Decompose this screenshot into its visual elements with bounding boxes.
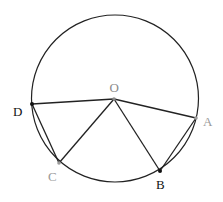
- label-d: D: [13, 104, 22, 119]
- point-a: [194, 116, 198, 120]
- label-c: C: [48, 169, 57, 184]
- point-o: [112, 97, 116, 101]
- label-o: O: [110, 80, 119, 95]
- points: [30, 97, 198, 173]
- segment-dc: [32, 104, 59, 163]
- segment-oa: [114, 99, 196, 118]
- segment-od: [32, 99, 114, 104]
- point-d: [30, 102, 34, 106]
- point-b: [158, 169, 162, 173]
- segment-oc: [59, 99, 114, 163]
- point-c: [57, 161, 61, 165]
- segment-ob: [114, 99, 160, 171]
- label-b: B: [156, 177, 165, 192]
- label-a: A: [203, 114, 213, 129]
- segment-ab: [160, 118, 196, 171]
- circle-diagram: O A B C D: [0, 0, 223, 202]
